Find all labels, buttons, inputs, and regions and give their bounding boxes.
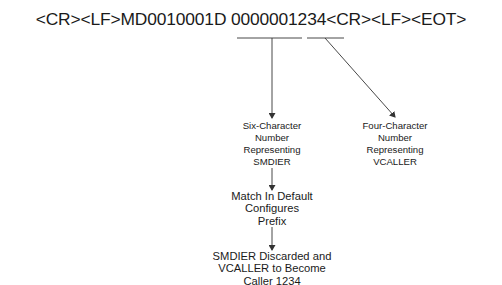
- match-line: Prefix: [192, 215, 352, 227]
- six-char-line: Number: [212, 132, 332, 144]
- six-char-line: SMDIER: [212, 156, 332, 168]
- four-char-line: VCALLER: [335, 156, 455, 168]
- match-box: Match In Default Configures Prefix: [192, 190, 352, 227]
- result-line: VCALLER to Become: [182, 262, 362, 274]
- four-char-box: Four-Character Number Representing VCALL…: [335, 120, 455, 168]
- six-char-box: Six-Character Number Representing SMDIER: [212, 120, 332, 168]
- match-line: Match In Default: [192, 190, 352, 202]
- four-char-line: Four-Character: [335, 120, 455, 132]
- result-box: SMDIER Discarded and VCALLER to Become C…: [182, 250, 362, 285]
- arrow-to-four-char: [325, 38, 395, 117]
- six-char-line: Six-Character: [212, 120, 332, 132]
- match-line: Configures: [192, 202, 352, 214]
- four-char-line: Number: [335, 132, 455, 144]
- four-char-line: Representing: [335, 144, 455, 156]
- six-char-line: Representing: [212, 144, 332, 156]
- result-line: SMDIER Discarded and: [182, 250, 362, 262]
- result-line: Caller 1234: [182, 275, 362, 285]
